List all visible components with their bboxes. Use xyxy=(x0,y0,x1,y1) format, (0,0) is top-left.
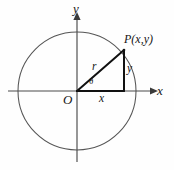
adjacent-side-label: x xyxy=(99,93,104,105)
figure-container: y x O r y x θ P(x,y) xyxy=(0,0,174,170)
origin-label: O xyxy=(63,93,72,106)
radius-label: r xyxy=(92,61,96,73)
unit-circle-diagram xyxy=(0,0,174,170)
angle-theta-label: θ xyxy=(89,77,93,86)
opposite-side-label: y xyxy=(127,63,132,75)
point-p-marker xyxy=(123,49,126,52)
y-axis-label: y xyxy=(73,2,79,15)
x-axis-label: x xyxy=(157,84,163,97)
triangle-hypotenuse xyxy=(77,50,124,91)
point-p-label: P(x,y) xyxy=(124,33,153,45)
